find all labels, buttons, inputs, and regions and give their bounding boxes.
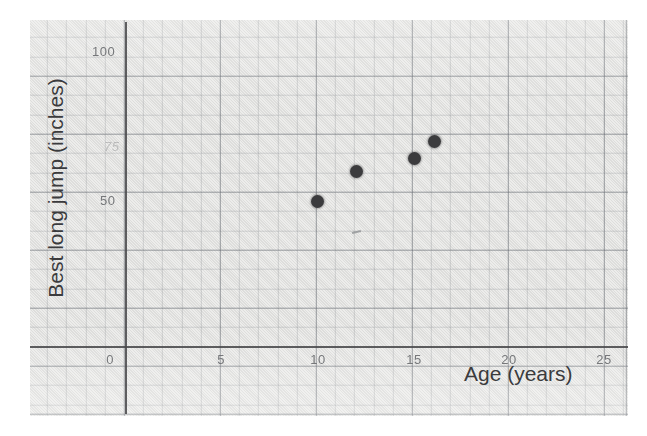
x-tick-label-5: 5 xyxy=(217,352,225,367)
y-axis-title: Best long jump (inches) xyxy=(44,78,68,297)
y-tick-label-100: 100 xyxy=(92,44,115,59)
data-point-age-15 xyxy=(408,152,421,165)
x-tick-label-15: 15 xyxy=(406,352,421,367)
scatter-plot-scan: 0 5 10 15 20 25 100 75 50 Age (years) Be… xyxy=(0,0,647,436)
x-tick-label-0: 0 xyxy=(106,352,114,367)
x-axis-line xyxy=(30,346,628,348)
data-point-age-12 xyxy=(350,165,363,178)
data-point-age-10 xyxy=(311,195,324,208)
y-tick-label-75: 75 xyxy=(104,139,119,154)
x-axis-title: Age (years) xyxy=(464,362,573,386)
data-point-age-16 xyxy=(428,135,441,148)
y-tick-label-50: 50 xyxy=(100,193,115,208)
x-tick-label-25: 25 xyxy=(596,352,611,367)
x-tick-label-10: 10 xyxy=(310,352,325,367)
y-axis-line xyxy=(125,22,127,414)
graph-paper-background xyxy=(30,20,628,416)
